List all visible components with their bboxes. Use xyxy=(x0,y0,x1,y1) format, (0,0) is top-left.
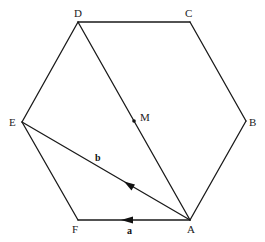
vector-label-a: a xyxy=(127,225,132,236)
point-label-M: M xyxy=(140,111,150,123)
vertex-label-B: B xyxy=(249,116,256,128)
vertex-label-C: C xyxy=(185,7,192,19)
vertex-label-E: E xyxy=(9,116,16,128)
hexagon-vector-diagram: D C B E F A M b a xyxy=(0,0,265,242)
vector-b-arrowhead-icon xyxy=(124,182,135,191)
vertex-label-F: F xyxy=(72,223,78,235)
vector-a-arrowhead-icon xyxy=(121,217,133,224)
vector-label-b: b xyxy=(95,152,101,163)
edge-BC xyxy=(190,22,246,121)
vertex-label-A: A xyxy=(187,223,195,235)
vertex-label-D: D xyxy=(74,7,82,19)
diagonals xyxy=(22,22,190,220)
edge-AB xyxy=(190,121,246,220)
midpoint-M-dot xyxy=(132,119,136,123)
diagonal-AE-vector-b xyxy=(22,122,190,220)
edge-DE xyxy=(22,22,78,122)
edge-EF xyxy=(22,122,78,220)
